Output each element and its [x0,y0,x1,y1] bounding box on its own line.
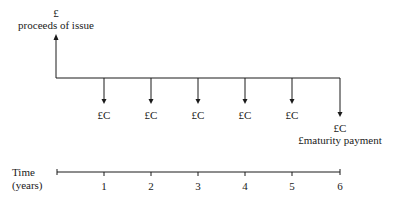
time-axis-title: Time [12,166,35,178]
time-tick-label-1: 1 [101,180,107,192]
proceeds-of-issue-label: proceeds of issue [18,19,94,31]
issue-currency-symbol: £ [53,7,59,19]
coupon-arrows [104,78,340,112]
proceeds-arrowhead-icon [54,34,59,40]
time-tick-label-5: 5 [289,180,295,192]
time-tick-label-6: 6 [337,180,343,192]
coupon-label-year-3: £C [192,109,205,121]
time-axis-units: (years) [12,179,43,191]
coupon-label-year-1: £C [98,109,111,121]
coupon-arrowheads-icon [102,99,343,117]
coupon-label-year-4: £C [239,109,252,121]
time-tick-label-4: 4 [242,180,248,192]
time-tick-label-3: 3 [195,180,201,192]
coupon-label-year-2: £C [145,109,158,121]
coupon-label-year-5: £C [286,109,299,121]
time-tick-label-2: 2 [148,180,154,192]
maturity-payment-label: £maturity payment [298,134,381,146]
coupon-label-year-6: £C [334,122,347,134]
